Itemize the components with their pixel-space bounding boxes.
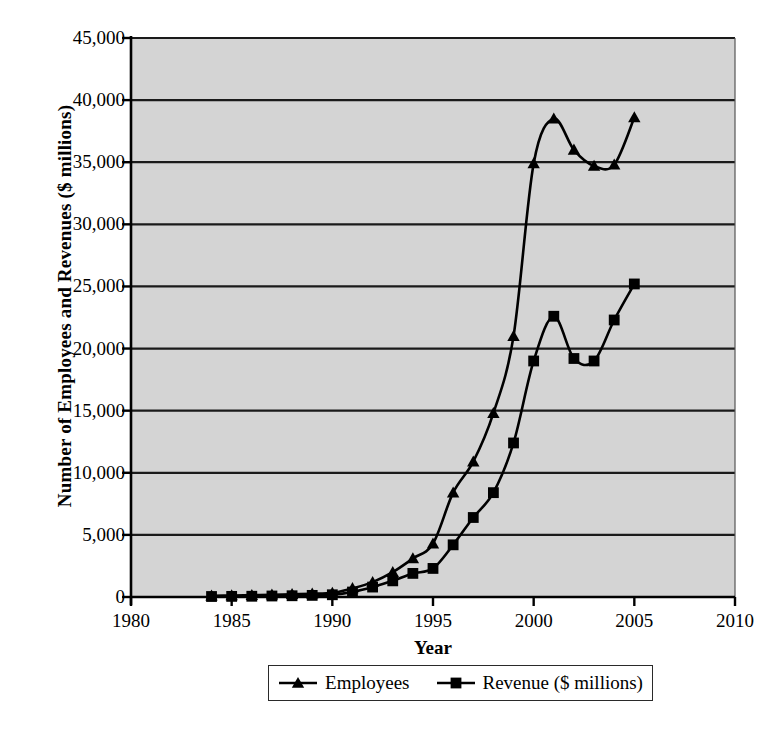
data-point-square [367, 582, 378, 593]
y-tick-label: 40,000 [37, 90, 125, 109]
data-point-square [267, 591, 278, 602]
data-point-square [629, 279, 640, 290]
x-tick-label: 1980 [96, 611, 166, 630]
plot-background [131, 38, 735, 597]
x-tick-label: 1990 [297, 611, 367, 630]
data-point-square [488, 487, 499, 498]
legend-marker-square-icon [436, 674, 476, 692]
y-tick-label: 25,000 [37, 276, 125, 295]
y-tick-label: 0 [37, 587, 125, 606]
data-point-square [226, 591, 237, 602]
y-tick-label: 45,000 [37, 28, 125, 47]
data-point-square [206, 591, 217, 602]
legend-label: Revenue ($ millions) [483, 672, 643, 694]
data-point-square [327, 589, 338, 600]
data-point-square [448, 539, 459, 550]
data-point-square [407, 568, 418, 579]
data-point-square [347, 587, 358, 598]
legend-marker-triangle-icon [278, 674, 318, 692]
y-tick-label: 20,000 [37, 339, 125, 358]
y-tick-label: 30,000 [37, 214, 125, 233]
x-tick-label: 2010 [700, 611, 770, 630]
chart-container: Number of Employees and Revenues ($ mill… [0, 0, 781, 731]
legend-item-revenue[interactable]: Revenue ($ millions) [436, 672, 643, 694]
data-point-square [548, 311, 559, 322]
data-point-square [468, 512, 479, 523]
legend: EmployeesRevenue ($ millions) [268, 665, 653, 701]
data-point-square [387, 575, 398, 586]
y-axis-title: Number of Employees and Revenues ($ mill… [54, 26, 76, 586]
data-point-square [287, 590, 298, 601]
x-tick-label: 2005 [599, 611, 669, 630]
x-axis-title: Year [131, 637, 735, 659]
y-tick-label: 35,000 [37, 152, 125, 171]
data-point-square [609, 315, 620, 326]
data-point-square [428, 563, 439, 574]
data-point-square [589, 356, 600, 367]
data-point-square [528, 356, 539, 367]
x-tick-label: 1985 [197, 611, 267, 630]
legend-item-employees[interactable]: Employees [278, 672, 409, 694]
data-point-square [508, 438, 519, 449]
y-tick-label: 10,000 [37, 463, 125, 482]
y-tick-label: 5,000 [37, 525, 125, 544]
data-point-square [307, 590, 318, 601]
data-point-square [569, 353, 580, 364]
x-tick-label: 2000 [499, 611, 569, 630]
y-tick-label: 15,000 [37, 401, 125, 420]
data-point-square [246, 591, 257, 602]
x-tick-label: 1995 [398, 611, 468, 630]
legend-label: Employees [325, 672, 409, 694]
